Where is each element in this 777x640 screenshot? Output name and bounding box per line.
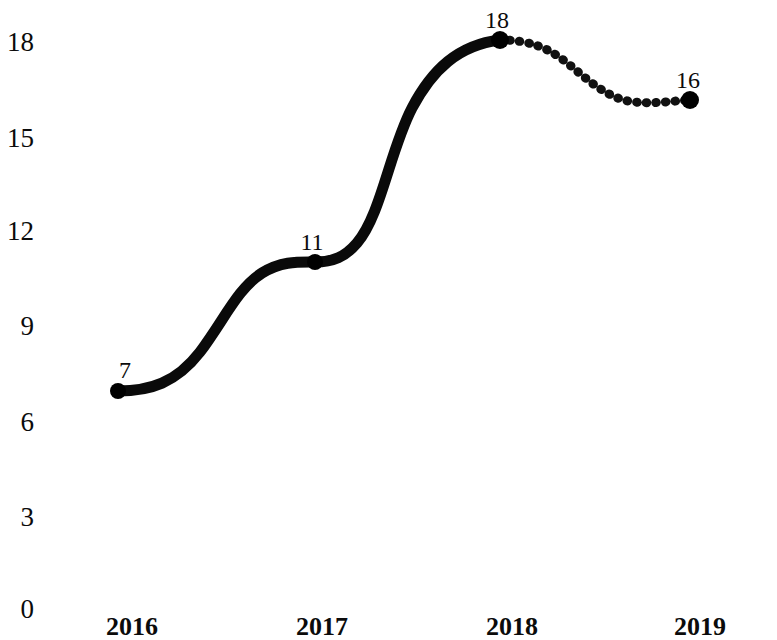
solid-trend-path	[118, 40, 500, 391]
data-point-marker-2019	[681, 91, 699, 109]
y-tick-label-15: 15	[0, 125, 34, 152]
x-tick-label-2018: 2018	[467, 614, 557, 640]
data-point-marker-2017	[307, 254, 323, 270]
data-label-2019: 16	[658, 68, 718, 92]
data-label-2018: 18	[467, 8, 527, 32]
data-point-markers	[110, 31, 699, 399]
y-tick-label-0: 0	[0, 596, 34, 623]
chart-plot-area	[0, 0, 777, 640]
data-label-2016: 7	[95, 358, 155, 382]
data-point-marker-2016	[110, 383, 126, 399]
y-tick-label-9: 9	[0, 313, 34, 340]
y-tick-label-12: 12	[0, 218, 34, 245]
y-tick-label-18: 18	[0, 29, 34, 56]
y-tick-label-3: 3	[0, 504, 34, 531]
x-tick-label-2016: 2016	[87, 614, 177, 640]
x-tick-label-2019: 2019	[655, 614, 745, 640]
data-line-actual	[118, 40, 500, 391]
line-chart: 18 15 12 9 6 3 0 2016 2017 2018 2019 7 1…	[0, 0, 777, 640]
data-label-2017: 11	[282, 230, 342, 254]
y-tick-label-6: 6	[0, 409, 34, 436]
x-tick-label-2017: 2017	[277, 614, 367, 640]
data-point-marker-2018	[491, 31, 509, 49]
